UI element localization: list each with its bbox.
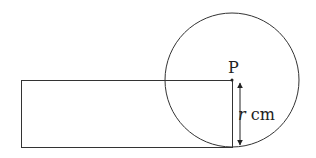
rectangle	[22, 81, 233, 148]
geometry-diagram: P r cm	[0, 0, 316, 158]
point-label-p: P	[228, 58, 239, 77]
radius-label: r cm	[238, 105, 275, 124]
radius-unit: cm	[246, 105, 275, 124]
center-point-p	[231, 79, 234, 82]
